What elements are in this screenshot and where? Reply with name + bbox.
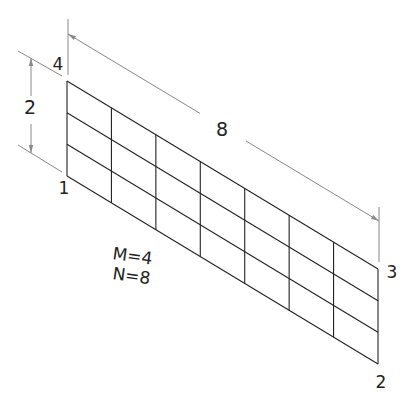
corner-label-3: 3 [387,262,398,282]
mesh-diagram: 4 1 3 2 2 8 M=4 N=8 [0,0,414,397]
corner-label-4: 4 [53,54,64,74]
arrow-head-icon [68,34,76,40]
corner-label-1: 1 [59,178,70,198]
arrow-head-icon [371,215,379,221]
height-dimension-label: 2 [24,96,36,118]
length-dimension-label: 8 [216,118,228,140]
dimension-lines [18,19,379,262]
param-n-text: N=8 [111,263,151,288]
length-dimension-line-left [68,34,200,113]
mesh-row-line [67,81,378,269]
corner-label-2: 2 [376,372,387,392]
length-dimension-line-right [246,141,379,221]
diagram-canvas: 4 1 3 2 2 8 M=4 N=8 [0,0,414,397]
mesh-row-line [67,144,378,332]
height-extension-line-bottom [18,145,62,172]
